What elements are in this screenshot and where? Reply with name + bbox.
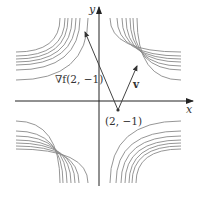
gradient-vector-arrow [85, 32, 118, 110]
contour-lower-left [16, 149, 88, 183]
gradient-label: ∇f(2, −1) [55, 73, 103, 85]
contour-upper-right [110, 18, 181, 52]
point-label: (2, −1) [105, 115, 142, 127]
contour-upper-left [16, 18, 88, 80]
y-axis-label: y [88, 3, 96, 16]
contour-upper-right [122, 18, 181, 59]
contour-lower-right [132, 146, 181, 183]
contour-upper-left [16, 18, 60, 52]
level-curves-diagram: x y ∇f(2, −1) v (2, −1) [0, 0, 203, 199]
contour-lower-right [110, 121, 181, 183]
contour-upper-left [16, 18, 65, 56]
x-axis-label: x [186, 103, 193, 116]
direction-vector-label: v [132, 78, 140, 90]
contour-lower-right [136, 149, 181, 183]
point-marker [116, 108, 119, 111]
contour-lower-left [16, 131, 63, 183]
